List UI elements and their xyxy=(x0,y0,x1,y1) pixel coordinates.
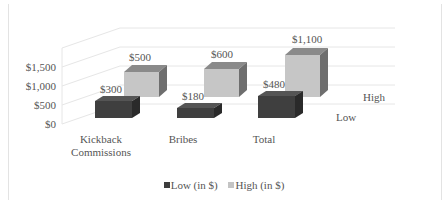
legend-swatch-high xyxy=(228,182,234,188)
x-axis-categories: Kickback Commissions Bribes Total xyxy=(71,133,275,158)
legend-item-high: High (in $) xyxy=(228,179,284,191)
bar-low-total xyxy=(258,91,303,118)
y-axis-ticks: $0 $500 $1,000 $1,500 xyxy=(26,61,57,130)
chart-plot: $0 $500 $1,000 $1,500 xyxy=(0,0,448,178)
bar-high-bribes xyxy=(204,62,247,97)
category-label: Total xyxy=(253,133,275,145)
data-label: $480 xyxy=(263,78,286,90)
data-label: $1,100 xyxy=(292,33,323,45)
data-label: $180 xyxy=(182,90,205,102)
y-tick: $500 xyxy=(34,99,57,111)
category-label: Bribes xyxy=(169,133,198,145)
y-tick: $1,000 xyxy=(26,80,57,92)
legend-label-high: High (in $) xyxy=(235,179,284,191)
y-tick: $0 xyxy=(45,118,57,130)
depth-label-low: Low xyxy=(336,111,356,123)
data-label: $500 xyxy=(129,51,152,63)
category-label: Kickback xyxy=(80,133,123,145)
category-label: Commissions xyxy=(71,146,131,158)
legend: Low (in $) High (in $) xyxy=(0,178,448,191)
bar-high-total xyxy=(285,48,328,97)
data-label: $300 xyxy=(100,83,123,95)
data-label: $600 xyxy=(211,48,234,60)
legend-swatch-low xyxy=(164,182,170,188)
bar-low-bribes xyxy=(177,103,222,118)
legend-item-low: Low (in $) xyxy=(164,179,218,191)
legend-label-low: Low (in $) xyxy=(171,179,218,191)
bar-high-kickback xyxy=(124,65,167,97)
y-tick: $1,500 xyxy=(26,61,57,73)
bar-low-kickback xyxy=(95,96,140,118)
depth-label-high: High xyxy=(363,91,386,103)
